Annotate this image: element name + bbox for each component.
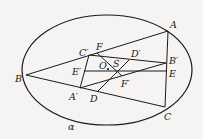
label-E: E <box>168 68 176 79</box>
segment-AC <box>165 31 168 107</box>
label-C: C <box>164 111 172 122</box>
label-F-prime: F′ <box>120 78 131 89</box>
label-D: D <box>89 93 98 104</box>
diagram-canvas: A B C A′ B′ C′ D D′ E E′ F F′ O S α <box>0 0 203 139</box>
label-A-prime: A′ <box>68 91 79 102</box>
label-B-prime: B′ <box>168 55 179 66</box>
geometry-figure: A B C A′ B′ C′ D D′ E E′ F F′ O S α <box>0 0 203 139</box>
point-O-dot <box>107 68 109 70</box>
label-B: B <box>14 73 22 84</box>
label-D-prime: D′ <box>130 48 142 59</box>
label-O: O <box>99 60 107 71</box>
label-S: S <box>113 58 120 69</box>
label-C-prime: C′ <box>79 47 89 58</box>
label-alpha: α <box>68 121 75 132</box>
label-A: A <box>169 19 177 30</box>
label-F: F <box>95 41 103 52</box>
label-E-prime: E′ <box>71 66 82 77</box>
